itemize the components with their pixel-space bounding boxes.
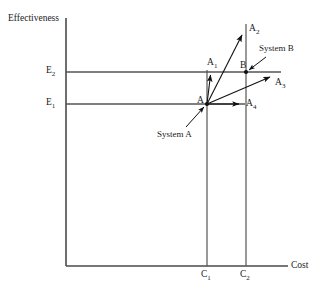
- x-tick-c1-sub: 1: [207, 274, 211, 282]
- system-a-pointer: [186, 107, 204, 127]
- vector-label-a3: A3: [275, 78, 285, 90]
- x-tick-c2: C2: [240, 270, 250, 282]
- x-tick-c1: C1: [201, 270, 211, 282]
- x-tick-c2-sub: 2: [246, 274, 250, 282]
- y-tick-e1-sub: 1: [52, 102, 56, 110]
- annotation-system-b: System B: [259, 44, 294, 53]
- point-b-marker: [244, 70, 248, 74]
- vector-label-a4-main: A: [246, 98, 253, 108]
- vector-label-a2-sub: 2: [256, 28, 260, 36]
- y-tick-e2: E2: [46, 66, 55, 78]
- vector-label-a1-main: A: [207, 57, 214, 67]
- point-a-marker: [205, 102, 209, 106]
- vector-label-a1-sub: 1: [214, 62, 218, 70]
- y-tick-e1: E1: [46, 98, 55, 110]
- vector-label-a2: A2: [249, 24, 259, 36]
- point-label-a: A: [197, 96, 204, 106]
- y-axis-label: Effectiveness: [8, 14, 59, 24]
- system-b-pointer: [249, 57, 266, 70]
- y-tick-e2-sub: 2: [52, 70, 56, 78]
- annotation-system-a: System A: [157, 130, 192, 139]
- vector-label-a1: A1: [207, 58, 217, 70]
- vector-label-a4-sub: 4: [253, 103, 257, 111]
- vector-a3: [207, 77, 270, 104]
- x-axis-label: Cost: [291, 261, 308, 271]
- vector-label-a3-sub: 3: [282, 82, 286, 90]
- vector-label-a4: A4: [246, 99, 256, 111]
- point-label-b: B: [240, 61, 246, 71]
- vector-label-a3-main: A: [275, 77, 282, 87]
- effectiveness-cost-diagram: Effectiveness Cost E2 E1 C1 C2 A B A1 A2…: [0, 0, 314, 289]
- vector-label-a2-main: A: [249, 23, 256, 33]
